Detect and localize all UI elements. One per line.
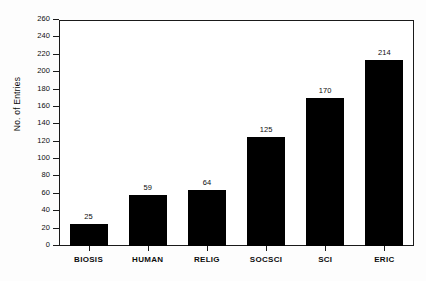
bar [70,224,108,246]
bar-chart-figure: No. of Entries 0204060801001201401601802… [0,0,426,281]
bar [129,195,167,246]
bar [306,98,344,246]
y-tick-label: 260 [18,14,50,23]
bar [247,137,285,246]
y-tick-label: 20 [18,223,50,232]
y-tick-label: 140 [18,118,50,127]
x-tick-mark [148,246,149,251]
y-tick-label: 80 [18,170,50,179]
x-tick-mark [89,246,90,251]
x-tick-mark [207,246,208,251]
y-tick-label: 240 [18,31,50,40]
bar-value-label: 25 [59,212,119,221]
y-tick-label: 0 [18,240,50,249]
bar-value-label: 125 [236,125,296,134]
y-tick-label: 60 [18,188,50,197]
x-tick-mark [266,246,267,251]
bar-value-label: 214 [354,48,414,57]
y-tick-label: 120 [18,136,50,145]
x-tick-mark [384,246,385,251]
bar-value-label: 170 [295,86,355,95]
bar [365,60,403,246]
bar-value-label: 59 [118,183,178,192]
x-tick-mark [325,246,326,251]
y-tick-label: 100 [18,153,50,162]
x-tick-label: ERIC [344,255,424,264]
bar [188,190,226,246]
bar-value-label: 64 [177,178,237,187]
y-tick-label: 200 [18,66,50,75]
y-tick-label: 160 [18,101,50,110]
y-tick-label: 180 [18,84,50,93]
y-tick-label: 220 [18,49,50,58]
y-tick-label: 40 [18,205,50,214]
